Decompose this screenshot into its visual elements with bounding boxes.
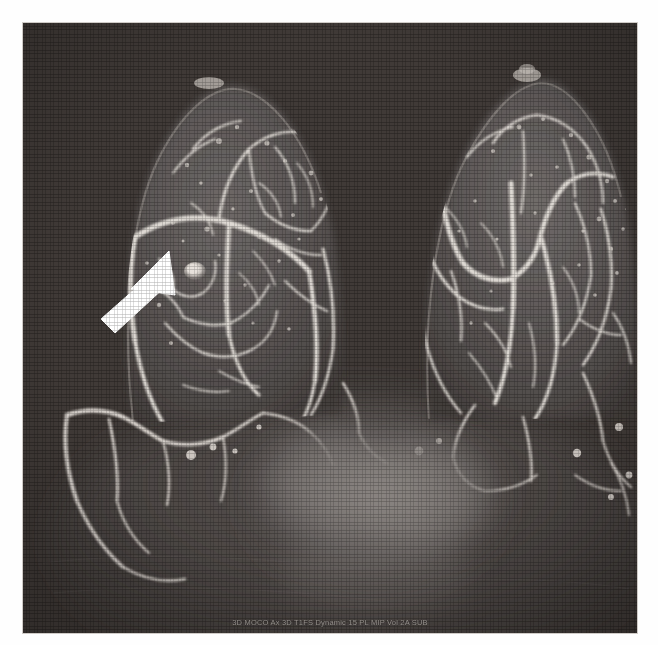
lesion-pointer-arrow [23,23,637,633]
mri-mip-image: 3D MOCO Ax 3D T1FS Dynamic 15 PL MIP Vol… [23,23,637,633]
scanned-page: 3D MOCO Ax 3D T1FS Dynamic 15 PL MIP Vol… [0,0,658,645]
